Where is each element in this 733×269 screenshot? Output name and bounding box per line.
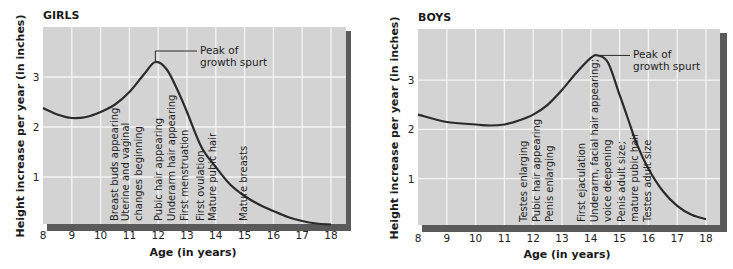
event-label: First ejaculation (576, 143, 587, 222)
girls-title: GIRLS (43, 9, 80, 22)
girls-chart: GIRLS 123 89101112131415161718 Breast bu… (14, 9, 351, 259)
x-tick-label: 12 (152, 229, 165, 241)
x-tick-label: 15 (238, 229, 251, 241)
girls-peak-label-line2: growth spurt (200, 56, 267, 68)
girls-x-axis-label: Age (in years) (149, 246, 236, 259)
event-label: First ovulation (195, 150, 206, 221)
boys-y-axis-label: Height increase per year (in inches) (388, 17, 401, 240)
event-label: First menstruation (179, 130, 190, 221)
x-tick-label: 9 (443, 232, 450, 244)
event-label: Breast buds appearing (109, 108, 120, 221)
event-label: Testes enlarging (518, 141, 529, 223)
x-tick-label: 14 (209, 229, 223, 241)
girls-peak-label-line1: Peak of (200, 44, 239, 56)
x-tick-label: 13 (180, 229, 193, 241)
growth-spurt-charts: GIRLS 123 89101112131415161718 Breast bu… (0, 0, 733, 269)
x-tick-label: 18 (699, 232, 712, 244)
event-label: Uterine and vaginal (120, 123, 131, 221)
x-tick-label: 11 (123, 229, 136, 241)
event-label: Penis enlarging (544, 146, 555, 222)
x-tick-label: 10 (94, 229, 107, 241)
event-label: Pubic hair appearing (531, 119, 542, 222)
event-label: voice deepening (602, 139, 613, 222)
event-label: Testes adult size (642, 140, 653, 223)
x-tick-label: 18 (324, 229, 337, 241)
y-tick-label: 1 (408, 173, 415, 185)
boys-title: BOYS (418, 11, 451, 24)
event-label: mature pubic hair (629, 132, 640, 222)
y-tick-label: 3 (33, 71, 40, 83)
girls-y-axis-label: Height increase per year (in inches) (14, 15, 27, 238)
event-label: Mature breasts (238, 146, 249, 221)
y-tick-label: 1 (33, 171, 40, 183)
boys-chart: BOYS 123 89101112131415161718 Testes enl… (388, 11, 727, 261)
x-tick-label: 11 (498, 232, 511, 244)
event-label: Underarm hair appearing (166, 95, 177, 221)
event-label: Pubic hair appearing (153, 118, 164, 221)
event-label: Penis adult size; (616, 141, 627, 222)
boys-peak-label-line1: Peak of (633, 48, 672, 60)
x-tick-label: 12 (527, 232, 540, 244)
x-tick-label: 8 (40, 229, 47, 241)
x-tick-label: 9 (68, 229, 75, 241)
event-label: Mature pubic hair (207, 132, 218, 221)
boys-y-ticks: 123 (408, 74, 415, 185)
x-tick-label: 8 (415, 232, 422, 244)
x-tick-label: 13 (555, 232, 568, 244)
x-tick-label: 14 (584, 232, 598, 244)
x-tick-label: 16 (267, 229, 281, 241)
boys-peak-label-line2: growth spurt (633, 60, 700, 72)
event-label: changes beginning (133, 126, 144, 221)
x-tick-label: 10 (469, 232, 482, 244)
x-tick-label: 17 (671, 232, 684, 244)
boys-plot-area (418, 29, 720, 225)
boys-x-axis-label: Age (in years) (523, 248, 610, 261)
y-tick-label: 3 (408, 74, 415, 86)
x-tick-label: 15 (613, 232, 626, 244)
x-tick-label: 17 (296, 229, 309, 241)
y-tick-label: 2 (33, 121, 40, 133)
girls-y-ticks: 123 (33, 71, 40, 183)
y-tick-label: 2 (408, 123, 415, 135)
x-tick-label: 16 (642, 232, 656, 244)
event-label: Underarm, facial hair appearing; (589, 59, 600, 222)
boys-x-ticks: 89101112131415161718 (415, 232, 713, 244)
